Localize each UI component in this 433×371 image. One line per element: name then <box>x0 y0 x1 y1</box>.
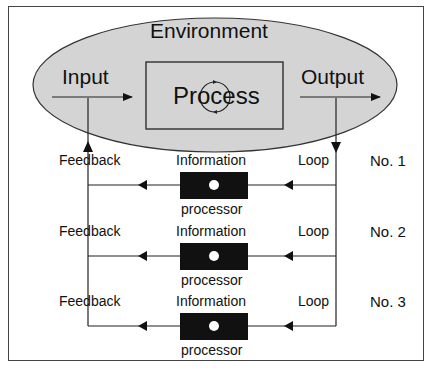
information-label: Information <box>176 224 246 238</box>
processor-dot <box>209 251 219 261</box>
loop-row-3 <box>88 313 336 340</box>
loop-number: No. 3 <box>370 294 406 309</box>
processor-label: processor <box>181 343 242 357</box>
loop-number: No. 1 <box>370 153 406 168</box>
loop-down-arrow-icon <box>331 142 341 153</box>
environment-label: Environment <box>150 20 268 41</box>
process-label: Process <box>173 84 260 108</box>
loop-number: No. 2 <box>370 224 406 239</box>
information-label: Information <box>176 294 246 308</box>
input-label: Input <box>62 66 109 87</box>
output-label: Output <box>301 66 364 87</box>
loop-label: Loop <box>298 294 329 308</box>
processor-label: processor <box>181 202 242 216</box>
feedback-label: Feedback <box>59 294 120 308</box>
processor-dot <box>209 321 219 331</box>
loop-row-1 <box>88 172 336 199</box>
feedback-label: Feedback <box>59 224 120 238</box>
loop-label: Loop <box>298 224 329 238</box>
loop-row-2 <box>88 243 336 270</box>
diagram-canvas <box>0 0 433 371</box>
feedback-up-arrow-icon <box>83 141 93 152</box>
processor-label: processor <box>181 273 242 287</box>
processor-dot <box>209 180 219 190</box>
loop-label: Loop <box>298 153 329 167</box>
information-label: Information <box>176 153 246 167</box>
feedback-label: Feedback <box>59 153 120 167</box>
